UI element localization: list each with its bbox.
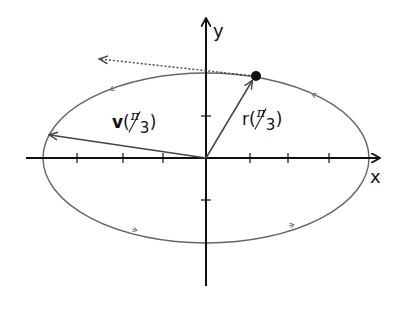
- position-symbol: r: [242, 109, 249, 129]
- fraction: π3: [256, 109, 276, 131]
- diagram-canvas: y x v(π3) r(π3): [0, 0, 398, 309]
- position-point: [251, 71, 261, 81]
- open-paren: (: [249, 109, 256, 129]
- fraction-denominator: 3: [266, 116, 276, 134]
- fraction-denominator: 3: [140, 119, 150, 137]
- close-paren: ): [150, 112, 157, 132]
- direction-arrow-bottom-right: [289, 225, 293, 226]
- velocity-label: v(π3): [112, 112, 156, 134]
- fraction: π3: [130, 112, 150, 134]
- velocity-vector: [50, 135, 206, 158]
- velocity-symbol: v: [112, 112, 123, 132]
- ellipse-diagram: [0, 0, 398, 309]
- position-label: r(π3): [242, 109, 282, 131]
- x-axis-label: x: [370, 166, 381, 187]
- y-axis-label: y: [213, 20, 224, 41]
- close-paren: ): [276, 109, 283, 129]
- direction-arrow-bottom-left: [132, 229, 136, 230]
